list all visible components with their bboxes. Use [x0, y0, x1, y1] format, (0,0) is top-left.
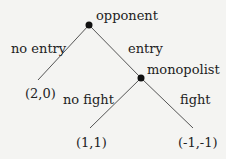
- edge-label-entry: entry: [128, 42, 163, 55]
- root-node-dot: [86, 22, 93, 29]
- monopolist-node-dot: [138, 75, 145, 82]
- payoff-no-entry: (2,0): [25, 87, 56, 100]
- root-player-label: opponent: [96, 9, 158, 22]
- monopolist-player-label: monopolist: [147, 63, 220, 76]
- edge-label-no-entry: no entry: [11, 42, 66, 55]
- edge-label-no-fight: no fight: [63, 93, 114, 106]
- payoff-no-fight: (1,1): [76, 136, 107, 149]
- payoff-fight: (-1,-1): [178, 136, 218, 149]
- edge-label-fight: fight: [180, 93, 211, 106]
